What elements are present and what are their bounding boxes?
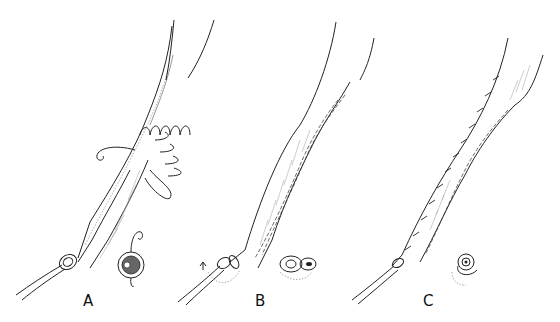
surgical-illustration (0, 0, 560, 322)
panel-a-drawing (16, 26, 190, 300)
panel-label-b: B (255, 292, 265, 310)
panel-b-drawing (166, 20, 350, 305)
panel-c-drawing (352, 38, 543, 304)
panel-label-c: C (423, 292, 433, 310)
panel-label-a: A (83, 292, 93, 310)
